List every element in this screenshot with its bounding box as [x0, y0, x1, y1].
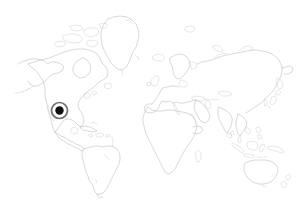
- location-marker[interactable]: [52, 103, 68, 119]
- location-marker-dot: [55, 106, 63, 114]
- map-background: [0, 0, 305, 210]
- world-map-figure: Outline world map, light gray coastlines…: [0, 0, 305, 210]
- world-map-svg: [0, 0, 305, 210]
